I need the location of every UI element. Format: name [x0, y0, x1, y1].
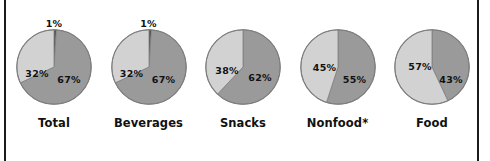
pie-chart-food: 43%57%Food	[388, 0, 476, 161]
pie-note-label: 1%	[140, 18, 157, 29]
slice-value-label: 67%	[152, 74, 175, 85]
pie-chart-nonfood: 55%45%Nonfood*	[294, 0, 382, 161]
slice-value-label: 32%	[120, 68, 143, 79]
slice-value-label: 55%	[343, 74, 366, 85]
slice-value-label: 43%	[439, 74, 462, 85]
pie-chart-beverages: 1%67%32%Beverages	[105, 0, 193, 161]
pie-svg	[300, 29, 376, 105]
pie-chart-row: 1%67%32%Total1%67%32%Beverages62%38%Snac…	[10, 0, 476, 161]
slice-value-label: 32%	[25, 68, 48, 79]
pie-note-slot	[388, 12, 476, 26]
slice-value-label: 57%	[408, 61, 431, 72]
pie-graphic: 62%38%	[205, 29, 281, 105]
slice-value-label: 45%	[313, 62, 336, 73]
pie-graphic: 43%57%	[394, 29, 470, 105]
pie-note-slot: 1%	[10, 12, 98, 26]
pie-category-label: Food	[382, 116, 482, 130]
frame-rule-right	[477, 0, 479, 161]
pie-svg	[394, 29, 470, 105]
pie-chart-total: 1%67%32%Total	[10, 0, 98, 161]
pie-chart-snacks: 62%38%Snacks	[199, 0, 287, 161]
slice-value-label: 62%	[248, 72, 271, 83]
slice-value-label: 38%	[215, 65, 238, 76]
pie-category-label: Beverages	[99, 116, 199, 130]
pie-chart-figure: 1%67%32%Total1%67%32%Beverages62%38%Snac…	[0, 0, 490, 161]
slice-value-label: 67%	[57, 74, 80, 85]
pie-note-slot	[199, 12, 287, 26]
pie-category-label: Nonfood*	[288, 116, 388, 130]
frame-rule-left	[4, 0, 6, 161]
pie-category-label: Total	[4, 116, 104, 130]
pie-category-label: Snacks	[193, 116, 293, 130]
pie-note-slot: 1%	[105, 12, 193, 26]
pie-graphic: 67%32%	[111, 29, 187, 105]
pie-graphic: 67%32%	[16, 29, 92, 105]
pie-note-slot	[294, 12, 382, 26]
pie-note-label: 1%	[46, 18, 63, 29]
pie-graphic: 55%45%	[300, 29, 376, 105]
